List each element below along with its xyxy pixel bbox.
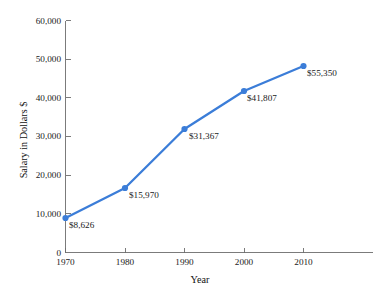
data-label-2000: $41,807: [247, 93, 277, 103]
y-axis-title: Salary in Dollars $: [18, 102, 29, 179]
chart-background: [0, 0, 382, 290]
chart-canvas: 60,000 50,000 40,000 30,000 20,000 10,00…: [0, 0, 382, 290]
data-label-1970: $8,626: [69, 220, 95, 230]
x-tick-label-1970: 1970: [56, 257, 75, 267]
data-label-2010: $55,350: [307, 68, 337, 78]
y-tick-label-40000: 40,000: [36, 93, 62, 103]
y-tick-label-10000: 10,000: [36, 209, 62, 219]
data-point-1970: [62, 215, 68, 221]
data-point-1980: [122, 185, 128, 191]
y-tick-label-50000: 50,000: [36, 54, 62, 64]
x-axis-title: Year: [191, 274, 210, 285]
data-point-2010: [300, 63, 306, 69]
y-tick-label-60000: 60,000: [36, 16, 62, 26]
data-label-1990: $31,367: [189, 131, 219, 141]
x-tick-label-1990: 1990: [175, 257, 194, 267]
x-tick-label-2010: 2010: [294, 257, 313, 267]
y-tick-label-20000: 20,000: [36, 170, 62, 180]
x-tick-label-1980: 1980: [116, 257, 135, 267]
y-tick-label-30000: 30,000: [36, 131, 62, 141]
data-label-1980: $15,970: [129, 190, 159, 200]
line-chart: 60,000 50,000 40,000 30,000 20,000 10,00…: [0, 0, 382, 290]
x-tick-label-2000: 2000: [235, 257, 254, 267]
data-point-1990: [181, 126, 187, 132]
